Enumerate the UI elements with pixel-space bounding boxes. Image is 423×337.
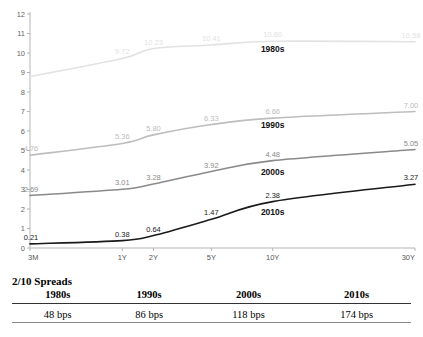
point-label: 5.80: [146, 124, 161, 133]
point-label: 6.33: [204, 114, 219, 123]
spreads-title: 2/10 Spreads: [0, 274, 423, 288]
series-line-2000s: [30, 150, 415, 196]
y-tick-label: 11: [17, 29, 25, 38]
point-label: 2.69: [24, 185, 39, 194]
spreads-header-row: 1980s 1990s 2000s 2010s: [12, 288, 411, 304]
x-tick-label: 30Y: [402, 253, 415, 262]
point-label: 3.01: [115, 178, 130, 187]
point-label: 4.48: [265, 150, 280, 159]
x-tick-label: 3M: [28, 253, 38, 262]
point-label: 0.38: [115, 230, 130, 239]
spreads-table: 1980s 1990s 2000s 2010s 48 bps 86 bps 11…: [12, 288, 411, 323]
x-tick-label: 5Y: [207, 253, 216, 262]
y-tick-label: 4: [21, 166, 25, 175]
y-tick-label: 7: [21, 107, 25, 116]
point-label: 3.27: [404, 173, 419, 182]
point-label: 10.41: [202, 34, 221, 43]
x-tick-label: 2Y: [149, 253, 158, 262]
point-label: 5.05: [404, 139, 419, 148]
series-line-1990s: [30, 112, 415, 156]
spreads-col-3: 2010s: [302, 288, 411, 304]
series-label-1980s: 1980s: [261, 44, 285, 54]
point-label: 3.92: [204, 161, 219, 170]
series-label-2010s: 2010s: [261, 207, 285, 217]
y-tick-label: 1: [21, 224, 25, 233]
spreads-col-1: 1990s: [103, 288, 194, 304]
point-label: 5.36: [115, 132, 130, 141]
spreads-col-0: 1980s: [12, 288, 103, 304]
series-line-2010s: [30, 184, 415, 244]
point-label: 6.66: [265, 107, 280, 116]
yield-curve-chart: 01234567891011123M1Y2Y5Y10Y30Y9.7210.231…: [0, 0, 423, 270]
point-label: 10.60: [263, 30, 282, 39]
point-label: 1.47: [204, 208, 219, 217]
point-label: 4.76: [24, 144, 39, 153]
spreads-value-0: 48 bps: [12, 304, 103, 323]
y-tick-label: 8: [21, 88, 25, 97]
spreads-value-row: 48 bps 86 bps 118 bps 174 bps: [12, 304, 411, 323]
point-label: 7.00: [404, 101, 419, 110]
spreads-value-2: 118 bps: [195, 304, 302, 323]
point-label: 0.64: [146, 225, 161, 234]
y-tick-label: 9: [21, 68, 25, 77]
spreads-value-3: 174 bps: [302, 304, 411, 323]
point-label: 9.72: [115, 47, 130, 56]
y-tick-label: 6: [21, 127, 25, 136]
point-label: 0.21: [24, 233, 39, 242]
spreads-panel: 2/10 Spreads 1980s 1990s 2000s 2010s 48 …: [0, 274, 423, 337]
x-tick-label: 10Y: [266, 253, 279, 262]
y-tick-label: 0: [21, 244, 25, 253]
point-label: 10.58: [402, 31, 421, 40]
x-tick-label: 1Y: [118, 253, 127, 262]
spreads-value-1: 86 bps: [103, 304, 194, 323]
spreads-col-2: 2000s: [195, 288, 302, 304]
y-tick-label: 12: [17, 10, 25, 19]
point-label: 10.23: [144, 38, 163, 47]
y-tick-label: 10: [17, 49, 25, 58]
point-label: 2.38: [265, 191, 280, 200]
series-label-1990s: 1990s: [261, 120, 285, 130]
series-line-1980s: [30, 41, 415, 76]
point-label: 3.28: [146, 173, 161, 182]
series-label-2000s: 2000s: [261, 167, 285, 177]
chart-canvas: 01234567891011123M1Y2Y5Y10Y30Y9.7210.231…: [0, 0, 423, 270]
y-tick-label: 2: [21, 205, 25, 214]
